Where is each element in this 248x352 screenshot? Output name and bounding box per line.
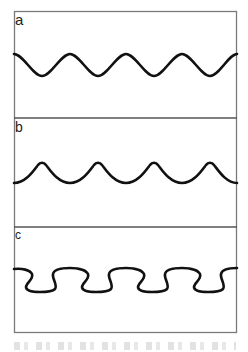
panel-label-b: b — [15, 120, 23, 134]
panel-label-c: c — [15, 229, 21, 241]
wave-curve-a — [14, 54, 237, 76]
figure-frame — [15, 12, 237, 333]
figure-caption-clipped — [14, 342, 236, 350]
panel-label-a: a — [15, 12, 23, 27]
caption-text — [14, 342, 236, 350]
wave-curve-b — [14, 163, 237, 183]
wave-curve-c — [14, 268, 237, 292]
